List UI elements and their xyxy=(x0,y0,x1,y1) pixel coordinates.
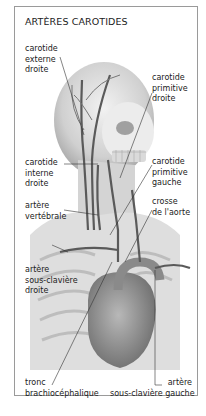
label-line: artère xyxy=(25,201,66,212)
label-artere-vertebrale: artère vertébrale xyxy=(25,201,66,222)
label-line: primitive xyxy=(152,168,188,179)
label-line: tronc xyxy=(25,378,99,389)
label-line: interne xyxy=(25,169,58,180)
label-line: droite xyxy=(152,94,188,105)
label-line: droite xyxy=(25,179,58,190)
label-line: crosse xyxy=(152,197,190,208)
label-line: brachiocéphalique xyxy=(25,389,99,400)
label-line: carotide xyxy=(152,157,188,168)
head-silhouette xyxy=(54,62,154,178)
label-carotide-primitive-gauche: carotide primitive gauche xyxy=(152,157,188,189)
label-carotide-primitive-droite: carotide primitive droite xyxy=(152,73,188,105)
label-line: droite xyxy=(25,286,78,297)
label-line: externe xyxy=(25,55,58,66)
label-line: sous-clavière xyxy=(25,276,78,287)
label-line: artère xyxy=(110,378,192,389)
label-line: sous-clavière gauche xyxy=(110,389,192,400)
label-artere-sous-claviere-gauche: artère sous-clavière gauche xyxy=(110,378,192,399)
label-line: droite xyxy=(25,65,58,76)
label-line: carotide xyxy=(25,158,58,169)
label-line: de l'aorte xyxy=(152,208,190,219)
label-line: carotide xyxy=(25,44,58,55)
label-line: vertébrale xyxy=(25,212,66,223)
label-line: primitive xyxy=(152,84,188,95)
label-crosse-de-l-aorte: crosse de l'aorte xyxy=(152,197,190,218)
label-line: carotide xyxy=(152,73,188,84)
label-line: gauche xyxy=(152,178,188,189)
label-tronc-brachiocephalique: tronc brachiocéphalique xyxy=(25,378,99,399)
label-artere-sous-claviere-droite: artère sous-clavière droite xyxy=(25,265,78,297)
label-line: artère xyxy=(25,265,78,276)
label-carotide-interne-droite: carotide interne droite xyxy=(25,158,58,190)
label-carotide-externe-droite: carotide externe droite xyxy=(25,44,58,76)
